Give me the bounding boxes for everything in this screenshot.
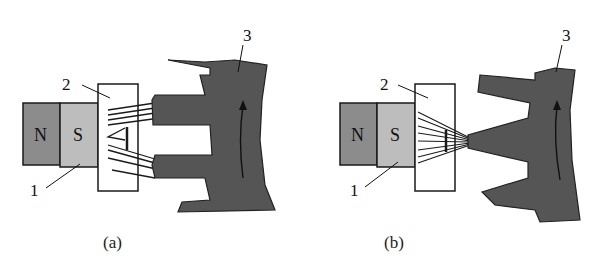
sensor-element [98, 84, 138, 191]
gear-wheel [152, 60, 275, 212]
panel-a: N S 2 1 3 [23, 26, 275, 212]
callout-1: 1 [350, 181, 359, 200]
diagram-canvas: N S 2 1 3 N S [0, 0, 589, 280]
caption-b: (b) [384, 233, 404, 253]
south-label: S [73, 125, 83, 145]
callout-1: 1 [30, 181, 39, 200]
callout-2: 2 [380, 75, 389, 94]
callout-2: 2 [62, 75, 71, 94]
callout-3: 3 [243, 26, 252, 45]
south-label: S [390, 125, 400, 145]
panel-b: N S 2 1 3 [340, 26, 580, 222]
callout-3: 3 [562, 26, 571, 45]
clipped-figure-caption [0, 270, 589, 280]
caption-a: (a) [103, 233, 122, 253]
gear-wheel [468, 68, 580, 222]
north-label: N [34, 125, 47, 145]
north-label: N [351, 125, 364, 145]
